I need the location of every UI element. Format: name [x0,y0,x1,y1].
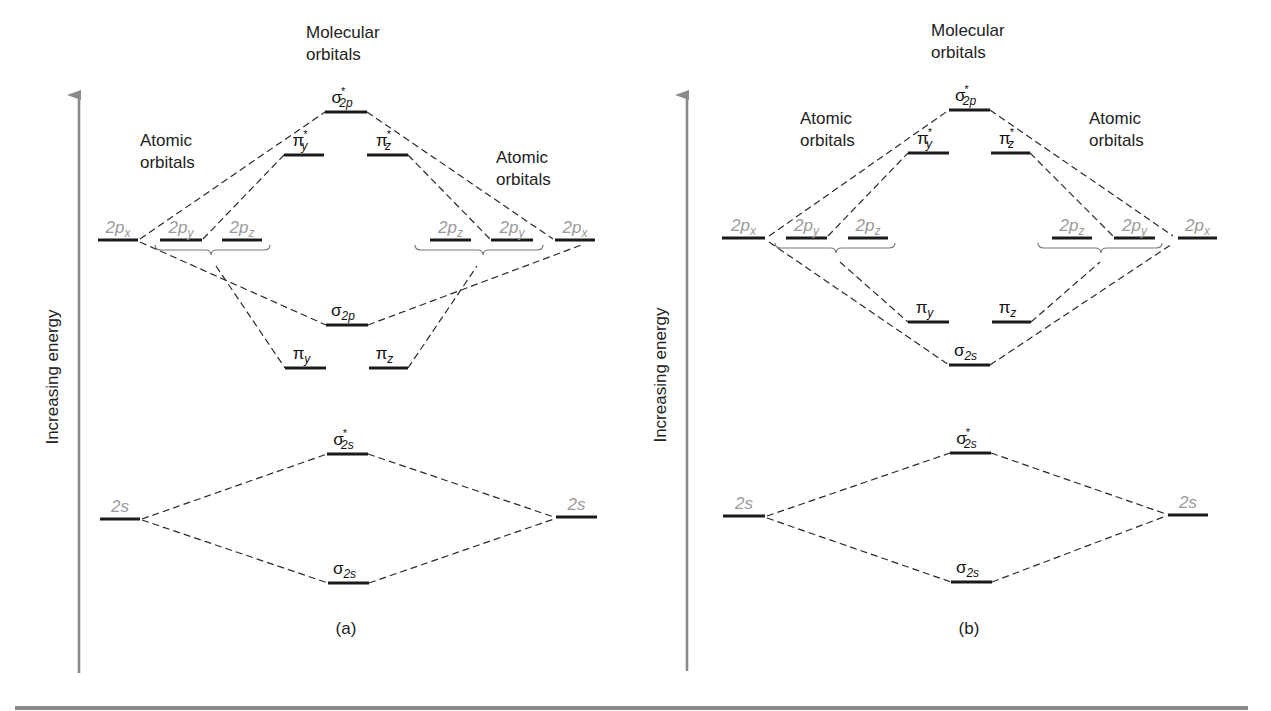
molecular-orbital-label: σ2s [333,559,356,581]
atomic-orbital-label: 2s [734,494,753,513]
correlation-dashed-line [368,244,584,325]
molecular-orbital-label: σ2p [331,301,355,323]
correlation-dashed-line [840,262,908,322]
panel-b-diagram: Increasing energyMolecularorbitalsAtomic… [651,21,1217,671]
molecular-orbitals-heading: Molecularorbitals [931,21,1005,62]
correlation-dashed-line [767,453,950,516]
mo-diagram-figure: Increasing energyMolecularorbitalsAtomic… [0,0,1271,711]
correlation-dashed-line [142,520,328,583]
correlation-dashed-line [990,244,1172,365]
panel-caption: (b) [959,619,980,638]
atomic-orbital-label: 2s [567,495,586,514]
correlation-dashed-line [368,454,554,517]
energy-axis-label: Increasing energy [651,307,670,443]
orbital-group-brace [155,245,270,255]
atomic-orbital-label: 2px [105,218,132,240]
correlation-dashed-line [767,518,951,582]
correlation-dashed-line [990,110,1173,236]
molecular-orbital-label: σ*2s [956,426,976,451]
molecular-orbitals-heading: Molecularorbitals [306,23,380,64]
molecular-orbital-label: σ*2s [333,427,353,452]
atomic-orbital-label: 2px [730,216,757,238]
atomic-orbital-label: 2px [1184,216,1211,238]
panel-caption: (a) [336,619,357,638]
atomic-orbital-label: 2s [110,497,129,516]
correlation-dashed-line [369,519,554,583]
panel-a-diagram: Increasing energyMolecularorbitalsAtomic… [43,23,597,673]
molecular-orbital-label: σ2s [954,341,977,363]
atomic-orbitals-heading: Atomicorbitals [1089,109,1144,150]
correlation-dashed-line [1031,262,1100,322]
atomic-orbital-label: 2py [499,218,526,240]
molecular-orbital-label: σ*2p [955,83,976,108]
atomic-orbital-label: 2py [168,218,195,240]
atomic-orbital-label: 2pz [1059,216,1085,238]
correlation-dashed-line [140,242,326,325]
atomic-orbitals-heading: Atomicorbitals [800,109,855,150]
atomic-orbitals-heading: Atomicorbitals [140,131,195,172]
molecular-orbital-label: σ*2p [331,85,352,110]
atomic-orbital-label: 2pz [855,216,881,238]
molecular-orbital-label: π*y [917,126,933,151]
atomic-orbital-label: 2pz [229,218,255,240]
molecular-orbital-label: π*z [999,126,1015,151]
atomic-orbital-label: 2pz [437,218,463,240]
atomic-orbital-label: 2py [793,216,820,238]
molecular-orbital-label: πy [293,344,312,366]
correlation-dashed-line [991,453,1166,514]
molecular-orbital-label: σ2s [956,558,979,580]
molecular-orbital-label: πz [999,298,1017,320]
molecular-orbital-label: π*y [292,128,308,153]
correlation-dashed-line [408,266,477,368]
correlation-dashed-line [992,516,1166,582]
energy-axis-label: Increasing energy [43,309,62,445]
orbital-group-brace [1038,243,1162,253]
atomic-orbitals-heading: Atomicorbitals [496,148,551,189]
correlation-dashed-line [216,266,285,368]
orbital-group-brace [775,243,895,253]
correlation-dashed-line [142,454,327,519]
atomic-orbital-label: 2s [1178,493,1197,512]
orbital-group-brace [415,245,543,255]
atomic-orbital-label: 2py [1121,216,1148,238]
molecular-orbital-label: π*z [376,128,392,153]
molecular-orbital-label: πz [376,344,394,366]
molecular-orbital-label: πy [916,298,935,320]
atomic-orbital-label: 2px [562,218,589,240]
